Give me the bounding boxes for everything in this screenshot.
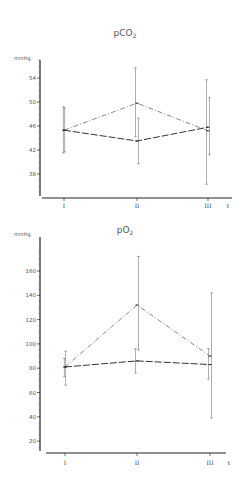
y-tick-label: 140 <box>26 292 37 298</box>
series-line-dash-dot <box>64 103 208 131</box>
x-tick-label: III <box>206 459 214 466</box>
x-tick-label: III <box>204 202 212 209</box>
po2-chart: pO2mmHg20406080100120140160IIIIIIt <box>0 222 247 482</box>
y-tick-label: 100 <box>26 341 37 347</box>
y-tick-label: 46 <box>29 123 36 129</box>
y-tick-label: 50 <box>29 99 36 105</box>
x-tick-label: II <box>135 202 140 209</box>
y-tick-label: 20 <box>29 438 36 444</box>
chart-title-main: pO <box>117 225 130 235</box>
y-axis-unit-label: mmHg <box>14 55 31 62</box>
y-tick-label: 120 <box>26 317 37 323</box>
pco2-chart: pCO2mmHg3842465054IIIIIIt <box>0 0 247 225</box>
chart-title: pO2 <box>117 225 134 236</box>
chart-title: pCO2 <box>114 28 137 39</box>
chart-title-main: pCO <box>114 28 133 38</box>
x-tick-label: II <box>135 459 140 466</box>
y-tick-label: 54 <box>29 75 36 81</box>
x-tick-label: I <box>63 202 66 209</box>
y-tick-label: 80 <box>29 365 36 371</box>
x-axis-label: t <box>227 202 230 209</box>
y-tick-label: 42 <box>29 147 36 153</box>
y-axis-unit-label: mmHg <box>14 231 31 238</box>
y-tick-label: 160 <box>26 268 37 274</box>
series-line-dash-dot <box>65 305 210 367</box>
pco2-chart-svg: pCO2mmHg3842465054IIIIIIt <box>0 0 247 225</box>
chart-title-subscript: 2 <box>133 32 137 39</box>
series-line-long-dash <box>65 361 210 367</box>
x-axis-label: t <box>228 459 231 466</box>
y-tick-label: 40 <box>29 414 36 420</box>
y-tick-label: 38 <box>29 171 36 177</box>
chart-title-subscript: 2 <box>129 229 133 236</box>
po2-chart-svg: pO2mmHg20406080100120140160IIIIIIt <box>0 222 247 482</box>
x-tick-label: I <box>64 459 67 466</box>
series-line-long-dash <box>64 127 208 141</box>
y-tick-label: 60 <box>29 390 36 396</box>
